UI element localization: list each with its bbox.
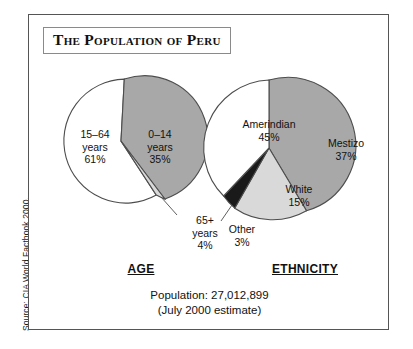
label-eth-other-pct: 3% [220,236,264,249]
chart-caption-ethnicity: ETHNICITY [257,262,353,276]
label-age-0-14: 0–14 years 35% [135,128,185,166]
label-eth-other: Other 3% [220,223,264,248]
label-age-0-14-unit: years [135,141,185,154]
page-title: The Population of Peru [53,31,221,49]
label-age-15-64: 15–64 years 61% [67,128,123,166]
footer-estimate: (July 2000 estimate) [29,303,390,318]
chart-caption-age: AGE [111,262,171,276]
leader-line-age-65plus [161,197,177,215]
figure-frame: The Population of Peru [28,14,389,330]
pie-slice-eth-other [224,148,269,208]
label-age-15-64-name: 15–64 [67,128,123,141]
label-age-15-64-unit: years [67,141,123,154]
label-eth-amerindian: Amerindian 45% [229,118,309,143]
footer-block: Population: 27,012,899 (July 2000 estima… [29,288,390,318]
label-age-0-14-name: 0–14 [135,128,185,141]
title-box: The Population of Peru [43,27,231,54]
label-eth-white-pct: 15% [276,196,322,209]
label-age-0-14-pct: 35% [135,153,185,166]
label-eth-other-name: Other [220,223,264,236]
label-eth-amerindian-pct: 45% [229,131,309,144]
charts-container [29,15,390,331]
label-eth-mestizo-name: Mestizo [319,137,373,150]
label-eth-white-name: White [276,183,322,196]
label-eth-mestizo: Mestizo 37% [319,137,373,162]
footer-population: Population: 27,012,899 [29,288,390,303]
label-eth-amerindian-name: Amerindian [229,118,309,131]
pies-svg [29,15,390,331]
label-eth-mestizo-pct: 37% [319,150,373,163]
label-age-15-64-pct: 61% [67,153,123,166]
label-eth-white: White 15% [276,183,322,208]
infographic-figure: Source: CIA World Factbook 2000. The Pop… [0,0,413,349]
